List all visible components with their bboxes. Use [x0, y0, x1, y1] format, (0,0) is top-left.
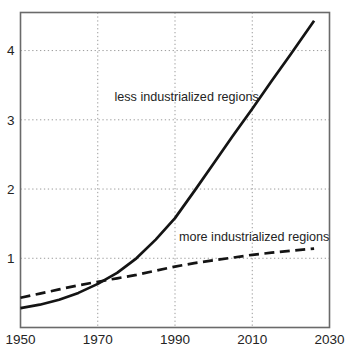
y-tick-label: 3: [7, 113, 15, 128]
x-tick-label: 1990: [160, 332, 190, 347]
x-tick-label: 2030: [314, 332, 344, 347]
x-tick-label: 1970: [83, 332, 113, 347]
y-tick-label: 1: [7, 251, 15, 266]
chart-canvas: 123419501970199020102030less industriali…: [0, 0, 350, 353]
series-line-less-industrialized: [21, 21, 315, 308]
y-tick-label: 4: [7, 43, 15, 58]
x-tick-label: 2010: [237, 332, 267, 347]
series-line-more-industrialized: [21, 249, 315, 298]
x-tick-label: 1950: [5, 332, 35, 347]
series-label-more-industrialized: more industrialized regions: [179, 230, 330, 244]
population-growth-chart: 123419501970199020102030less industriali…: [0, 0, 350, 353]
y-tick-label: 2: [7, 182, 15, 197]
series-label-less-industrialized: less industrialized regions: [114, 90, 258, 104]
